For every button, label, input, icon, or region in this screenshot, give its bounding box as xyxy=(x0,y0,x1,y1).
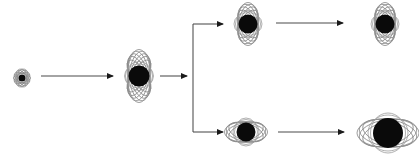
nucleus-icon xyxy=(129,66,150,87)
nucleus-icon xyxy=(376,15,395,34)
nucleus-icon xyxy=(237,123,256,142)
nucleus-icon xyxy=(239,15,258,34)
node-branch-bottom xyxy=(225,118,268,146)
arrowhead-icon xyxy=(217,129,224,135)
arrowhead-icon xyxy=(181,73,188,79)
arrowhead-icon xyxy=(338,129,345,135)
arrowhead-icon xyxy=(337,20,344,26)
atom-growth-diagram xyxy=(0,0,419,160)
node-stage2 xyxy=(122,50,155,103)
nucleus-icon xyxy=(18,74,25,81)
arrow-seed-to-stage2 xyxy=(41,73,114,79)
arrow-branch-lower xyxy=(193,129,224,135)
arrow-branch-upper xyxy=(193,21,224,27)
arrowhead-icon xyxy=(107,73,114,79)
node-branch-top xyxy=(233,3,262,46)
connector-group xyxy=(41,20,345,135)
node-final-top xyxy=(370,3,399,46)
arrow-bottom-to-final xyxy=(278,129,345,135)
nucleus-icon xyxy=(373,118,403,148)
diagram-canvas xyxy=(0,0,419,160)
arrow-top-to-final xyxy=(276,20,344,26)
node-final-bottom xyxy=(357,113,419,153)
arrowhead-icon xyxy=(217,21,224,27)
node-seed xyxy=(12,68,31,89)
arrow-stage2-to-branch xyxy=(160,73,188,79)
